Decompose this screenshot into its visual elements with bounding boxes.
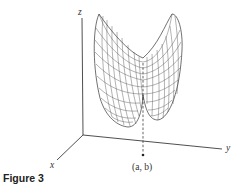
- z-axis-label: z: [78, 7, 82, 17]
- saddle-surface: [94, 14, 182, 127]
- y-axis-label: y: [226, 143, 230, 153]
- saddle-diagram: [0, 0, 245, 189]
- axes: [57, 18, 222, 160]
- figure-caption: Figure 3: [3, 172, 44, 184]
- point-label: (a, b): [132, 162, 152, 172]
- point-a-b: [142, 154, 145, 157]
- x-axis-label: x: [50, 160, 54, 170]
- z-axis: [82, 18, 83, 135]
- x-axis: [57, 135, 83, 160]
- y-axis: [83, 135, 222, 149]
